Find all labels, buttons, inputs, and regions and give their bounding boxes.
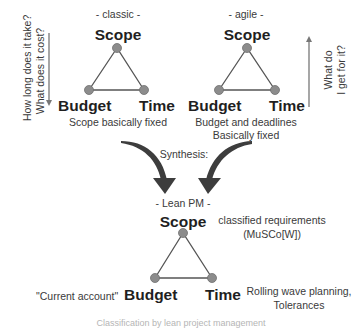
classic-side-note: How long does it take? What does it cost… bbox=[21, 21, 47, 121]
lean-time-note-line2: Tolerances bbox=[274, 299, 325, 311]
lean-triangle bbox=[151, 229, 217, 283]
classic-caption: Scope basically fixed bbox=[69, 116, 167, 128]
lean-budget-label: Budget bbox=[124, 286, 177, 304]
classic-title: - classic - bbox=[96, 8, 140, 20]
agile-time-label: Time bbox=[269, 97, 305, 115]
lean-time-label: Time bbox=[205, 286, 241, 304]
footer-caption: Classification by lean project managemen… bbox=[96, 318, 265, 328]
agile-side-note-line2: I get for it? bbox=[335, 40, 348, 100]
lean-title: - Lean PM - bbox=[156, 197, 211, 209]
classic-scope-label: Scope bbox=[95, 26, 142, 44]
lean-scope-note-line2: (MuSCo[W]) bbox=[243, 228, 301, 240]
classic-triangle bbox=[85, 44, 149, 95]
agile-budget-label: Budget bbox=[188, 97, 241, 115]
classic-side-note-line1: How long does it take? bbox=[21, 21, 34, 121]
agile-title: - agile - bbox=[228, 8, 263, 20]
agile-scope-label: Scope bbox=[224, 26, 271, 44]
classic-budget-label: Budget bbox=[58, 97, 111, 115]
agile-side-note: What do I get for it? bbox=[322, 40, 348, 100]
lean-scope-note-line1: classified requirements bbox=[218, 214, 325, 226]
up-arrow-icon bbox=[306, 36, 312, 107]
classic-side-note-line2: What does it cost? bbox=[34, 21, 47, 121]
agile-caption-line2: Basically fixed bbox=[213, 129, 280, 141]
classic-time-label: Time bbox=[139, 97, 175, 115]
agile-caption-line1: Budget and deadlines bbox=[195, 116, 297, 128]
lean-time-note-line1: Rolling wave planning, bbox=[246, 285, 351, 297]
lean-budget-note: "Current account" bbox=[36, 290, 118, 302]
synthesis-label: Synthesis: bbox=[160, 148, 208, 160]
agile-triangle bbox=[215, 44, 280, 95]
lean-scope-label: Scope bbox=[160, 213, 207, 231]
agile-side-note-line1: What do bbox=[322, 40, 335, 100]
